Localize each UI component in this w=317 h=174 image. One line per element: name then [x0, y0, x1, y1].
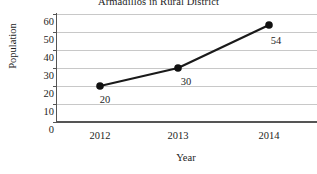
x-axis-title: Year [55, 152, 317, 164]
data-point-label: 30 [166, 76, 206, 88]
data-point-marker [265, 21, 273, 29]
x-axis-tick-label: 2013 [148, 129, 208, 142]
x-axis-tick-label: 2012 [70, 129, 130, 142]
x-axis-tick-labels: 2012 2013 2014 [55, 129, 317, 145]
data-point-label: 20 [85, 94, 125, 106]
line-chart: Armadillos in Rural District Population … [0, 0, 317, 174]
data-point-marker [96, 82, 104, 90]
data-point-marker [174, 64, 182, 72]
gridlines [56, 15, 317, 105]
plot-area [0, 0, 317, 174]
x-axis-tick-label: 2014 [239, 129, 299, 142]
data-point-label: 54 [256, 35, 296, 47]
